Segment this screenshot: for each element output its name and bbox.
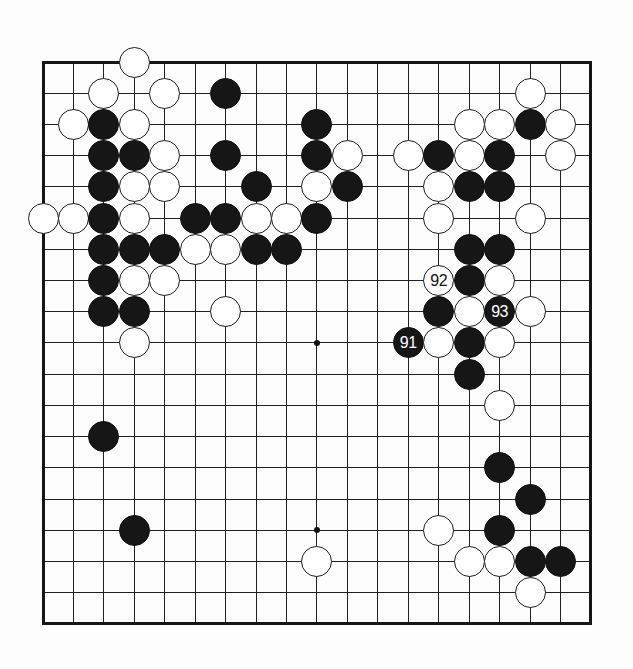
stone-black bbox=[149, 234, 180, 265]
stone-white bbox=[484, 390, 515, 421]
stone-black bbox=[545, 546, 576, 577]
stone-white bbox=[28, 203, 59, 234]
stone-white bbox=[241, 203, 272, 234]
stone-white bbox=[58, 109, 89, 140]
stone-white bbox=[271, 203, 302, 234]
move-number-label: 92 bbox=[430, 272, 447, 290]
stone-black bbox=[210, 78, 241, 109]
stone-white bbox=[119, 203, 150, 234]
stone-white bbox=[423, 515, 454, 546]
stone-black bbox=[88, 234, 119, 265]
stone-white bbox=[545, 109, 576, 140]
stone-black bbox=[454, 327, 485, 358]
stone-white bbox=[484, 546, 515, 577]
stone-white bbox=[332, 140, 363, 171]
stone-black bbox=[119, 515, 150, 546]
stone-white bbox=[88, 78, 119, 109]
go-diagram-page: 929391 bbox=[0, 0, 633, 669]
stone-white bbox=[515, 577, 546, 608]
stone-white bbox=[119, 109, 150, 140]
stone-black bbox=[241, 234, 272, 265]
stone-black bbox=[484, 515, 515, 546]
stone-white bbox=[454, 109, 485, 140]
stone-white bbox=[119, 265, 150, 296]
stone-white bbox=[515, 78, 546, 109]
stone-white bbox=[58, 203, 89, 234]
stone-black bbox=[271, 234, 302, 265]
stone-black bbox=[119, 296, 150, 327]
stone-white bbox=[423, 203, 454, 234]
stone-white bbox=[515, 203, 546, 234]
stone-black bbox=[454, 359, 485, 390]
stone-white bbox=[210, 234, 241, 265]
stone-black bbox=[241, 171, 272, 202]
stone-white bbox=[149, 78, 180, 109]
move-number-label: 93 bbox=[491, 303, 508, 321]
move-number-label: 91 bbox=[400, 334, 417, 352]
stone-black bbox=[484, 234, 515, 265]
star-point bbox=[314, 340, 320, 346]
stone-white bbox=[454, 546, 485, 577]
stone-black bbox=[88, 203, 119, 234]
stone-black bbox=[180, 203, 211, 234]
stone-black bbox=[515, 546, 546, 577]
go-board[interactable]: 929391 bbox=[0, 0, 633, 669]
stone-white bbox=[119, 171, 150, 202]
stone-black bbox=[515, 484, 546, 515]
stone-black bbox=[454, 265, 485, 296]
stone-black bbox=[454, 171, 485, 202]
stone-white bbox=[393, 140, 424, 171]
stone-black bbox=[454, 234, 485, 265]
stone-white bbox=[119, 47, 150, 78]
stone-black bbox=[119, 234, 150, 265]
stone-black bbox=[515, 109, 546, 140]
stone-white bbox=[545, 140, 576, 171]
stone-black bbox=[210, 203, 241, 234]
stone-white bbox=[484, 265, 515, 296]
stone-white bbox=[454, 140, 485, 171]
stone-black bbox=[119, 140, 150, 171]
stone-black bbox=[301, 203, 332, 234]
stone-white bbox=[180, 234, 211, 265]
stone-white bbox=[484, 109, 515, 140]
stone-white bbox=[515, 296, 546, 327]
stone-white bbox=[454, 296, 485, 327]
